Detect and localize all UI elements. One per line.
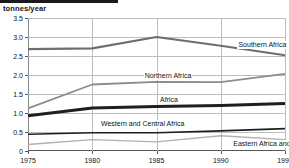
x-axis-tick-label: 1975: [20, 157, 36, 164]
x-axis-tick: [285, 151, 286, 154]
series-line: [28, 104, 285, 116]
x-axis-tick: [221, 151, 222, 154]
y-axis-tick-label: 0.5: [13, 129, 23, 136]
gridline-vertical: [285, 18, 286, 151]
series-label: Africa: [159, 96, 179, 104]
y-axis-tick-label: 0: [19, 148, 23, 155]
y-axis-tick-label: 3.0: [13, 34, 23, 41]
series-lines: [28, 18, 285, 151]
x-axis-tick: [92, 151, 93, 154]
series-label: Northern Africa: [144, 72, 193, 80]
x-axis-tick-label: 1980: [84, 157, 100, 164]
header-rule: [0, 0, 118, 3]
y-axis-unit-label: tonnes/year: [3, 4, 46, 13]
x-axis-tick-label: 1985: [149, 157, 165, 164]
y-axis-tick-label: 3.5: [13, 15, 23, 22]
y-axis-tick-label: 2.0: [13, 72, 23, 79]
y-axis-tick-label: 2.5: [13, 53, 23, 60]
chart-figure: tonnes/year 00.51.01.52.02.53.03.5 19751…: [0, 0, 289, 168]
x-axis-tick-label: 1995: [277, 157, 289, 164]
y-axis-tick-label: 1.0: [13, 110, 23, 117]
y-axis-tick-label: 1.5: [13, 91, 23, 98]
x-axis-tick: [157, 151, 158, 154]
x-axis-tick-label: 1990: [213, 157, 229, 164]
x-axis-tick: [28, 151, 29, 154]
series-label: Western and Central Africa: [100, 120, 186, 128]
series-label: Eastern Africa and Indian Ocean Islands: [232, 140, 289, 148]
series-line: [28, 129, 285, 135]
series-label: Southern Africa: [237, 41, 287, 49]
plot-area: 00.51.01.52.02.53.03.5 19751980198519901…: [28, 18, 285, 151]
